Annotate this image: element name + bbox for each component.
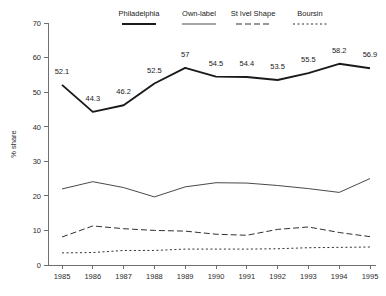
- chart-container: PhiladelphiaOwn-labelSt Ivel ShapeBoursi…: [0, 0, 386, 296]
- x-tick-label: 1995: [362, 272, 379, 281]
- data-label: 54.5: [209, 59, 224, 68]
- y-tick-label: 60: [33, 53, 41, 62]
- y-tick-label: 10: [33, 226, 41, 235]
- y-tick-label: 0: [37, 261, 41, 270]
- x-tick-label: 1987: [115, 272, 132, 281]
- data-label: 53.5: [270, 62, 285, 71]
- x-tick-label: 1986: [84, 272, 101, 281]
- data-label: 54.4: [239, 59, 254, 68]
- chart-data-labels: 52.144.346.252.55754.554.453.555.558.256…: [55, 46, 378, 103]
- y-tick-label: 40: [33, 123, 41, 132]
- x-tick-label: 1992: [269, 272, 286, 281]
- x-tick-label: 1993: [300, 272, 317, 281]
- x-tick-label: 1989: [177, 272, 194, 281]
- y-tick-label: 50: [33, 88, 41, 97]
- x-tick-label: 1988: [146, 272, 163, 281]
- series-line-philadelphia: [62, 64, 370, 112]
- legend-label-philadelphia[interactable]: Philadelphia: [119, 9, 161, 18]
- line-chart: PhiladelphiaOwn-labelSt Ivel ShapeBoursi…: [0, 0, 386, 296]
- legend-label-boursin[interactable]: Boursin: [297, 9, 322, 18]
- data-label: 44.3: [85, 94, 100, 103]
- y-axis-ticks: 010203040506070: [33, 19, 48, 270]
- x-tick-label: 1991: [238, 272, 255, 281]
- legend-label-own-label[interactable]: Own-label: [182, 9, 216, 18]
- data-label: 58.2: [332, 46, 347, 55]
- chart-legend: PhiladelphiaOwn-labelSt Ivel ShapeBoursi…: [119, 9, 327, 24]
- legend-label-st-ivel-shape[interactable]: St Ivel Shape: [231, 9, 276, 18]
- series-line-boursin: [62, 247, 370, 253]
- y-tick-label: 20: [33, 192, 41, 201]
- x-tick-label: 1985: [54, 272, 71, 281]
- x-axis-ticks: 1985198619871988198919901991199219931994…: [54, 265, 379, 281]
- data-label: 56.9: [363, 50, 378, 59]
- y-tick-label: 70: [33, 19, 41, 28]
- data-label: 57: [181, 50, 189, 59]
- chart-series: [62, 64, 370, 253]
- x-tick-label: 1994: [331, 272, 348, 281]
- y-tick-label: 30: [33, 157, 41, 166]
- y-axis-title: % share: [9, 130, 18, 158]
- series-line-st-ivel-shape: [62, 226, 370, 237]
- series-line-own-label: [62, 179, 370, 197]
- data-label: 52.5: [147, 66, 162, 75]
- data-label: 55.5: [301, 55, 316, 64]
- data-label: 52.1: [55, 67, 70, 76]
- x-tick-label: 1990: [208, 272, 225, 281]
- data-label: 46.2: [116, 87, 131, 96]
